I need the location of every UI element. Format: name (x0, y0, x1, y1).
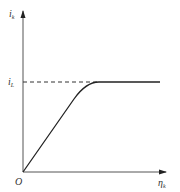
x-axis-label: ηk (158, 177, 166, 189)
y-axis-label: ik (9, 8, 15, 20)
current-overpotential-diagram: ik iL O ηk (0, 0, 180, 192)
limit-current-label: iL (8, 76, 15, 88)
origin-label: O (15, 176, 22, 187)
polarization-curve (23, 82, 160, 172)
